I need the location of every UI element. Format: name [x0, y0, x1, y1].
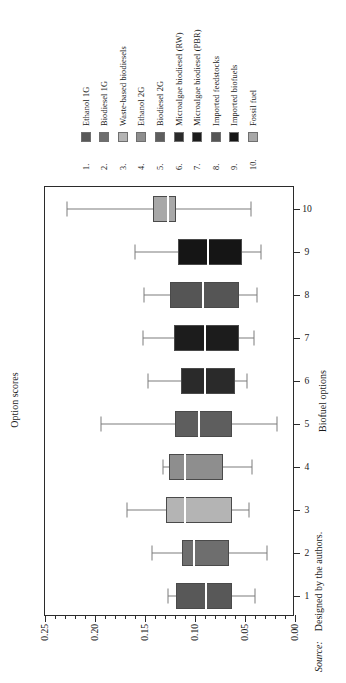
option-axis-tick-label: 3 [298, 503, 316, 514]
boxplot-whisker-cap-low [249, 502, 250, 517]
score-axis-tick-label-text: 0.05 [239, 624, 250, 641]
score-axis-major-tick [45, 615, 46, 622]
legend-entry-number-text: 9. [230, 164, 239, 170]
boxplot-whisker-cap-high [143, 330, 144, 345]
score-axis-minor-tick [185, 615, 186, 619]
boxplot-whisker-cap-low [267, 545, 268, 560]
option-axis-tick-label: 8 [298, 288, 316, 299]
option-axis-tick-label: 4 [298, 460, 316, 471]
score-axis-minor-tick [215, 615, 216, 619]
legend-entry-number-text: 7. [193, 164, 202, 170]
boxplot-box [45, 454, 295, 480]
source-label: Source: [313, 641, 324, 672]
boxplot-median-line [184, 454, 186, 480]
score-axis-minor-tick [55, 615, 56, 619]
boxplot-whisker-cap-low [251, 201, 252, 216]
boxplot-box [45, 325, 295, 351]
score-axis-minor-tick [285, 615, 286, 619]
boxplot-median-line [204, 325, 206, 351]
score-axis-tick-labels: 0.000.050.100.150.200.25 [44, 624, 294, 664]
boxplot-box [45, 411, 295, 437]
legend-entry-label-text: Biodiesel 1G [100, 81, 109, 126]
boxplot-whisker-cap-high [168, 588, 169, 603]
legend-entry-label-text: Waste-based biodiesels [118, 46, 127, 126]
boxplot-whisker-cap-low [247, 373, 248, 388]
legend-entry: Imported biofuels9. [225, 0, 244, 172]
source-credit: Designed by the authors. [313, 532, 324, 631]
score-axis-tick-label-text: 0.10 [189, 624, 200, 641]
score-axis-minor-tick [165, 615, 166, 619]
boxplot-whisker-cap-high [135, 244, 136, 259]
option-axis-tick-label: 6 [298, 374, 316, 385]
boxplot-iqr-rect [181, 368, 235, 394]
score-axis-minor-tick [205, 615, 206, 619]
legend: Ethanol 1G1.Biodiesel 1G2.Waste-based bi… [0, 0, 346, 172]
legend-entry: Microalgae biodiesel (PBR)7. [188, 0, 207, 172]
legend-entry-number-text: 1. [81, 164, 90, 170]
boxplot-box [45, 196, 295, 222]
boxplot-median-line [202, 282, 204, 308]
legend-entry-label-text: Microalgae biodiesel (RW) [174, 32, 183, 126]
legend-entry-label-text: Imported feedstocks [211, 56, 220, 126]
boxplot-whisker-cap-high [127, 502, 128, 517]
score-axis-minor-tick [135, 615, 136, 619]
legend-entry-number-text: 6. [174, 164, 183, 170]
score-axis-minor-tick [115, 615, 116, 619]
legend-color-swatch [136, 132, 146, 142]
legend-entry-number-text: 3. [118, 164, 127, 170]
boxplot-box [45, 282, 295, 308]
boxplot-iqr-rect [178, 239, 242, 265]
legend-entry: Biodiesel 1G2. [95, 0, 114, 172]
score-axis-major-tick [295, 615, 296, 622]
boxplot-iqr-rect [153, 196, 176, 222]
boxplot-whisker-cap-high [152, 545, 153, 560]
score-axis-minor-tick [125, 615, 126, 619]
boxplot-iqr-rect [176, 583, 232, 609]
boxplot-box [45, 540, 295, 566]
score-axis-minor-tick [265, 615, 266, 619]
legend-color-swatch [229, 132, 239, 142]
score-axis-major-tick [245, 615, 246, 622]
boxplot-whisker-cap-low [254, 330, 255, 345]
boxplot-whisker-cap-low [252, 459, 253, 474]
option-axis-tick-label: 10 [298, 202, 316, 213]
score-axis-minor-tick [105, 615, 106, 619]
legend-entry-number-text: 4. [137, 164, 146, 170]
score-axis-major-tick [95, 615, 96, 622]
boxplot-whisker-cap-high [144, 287, 145, 302]
boxplot-whisker-cap-high [163, 459, 164, 474]
score-axis-title-text: Option scores [9, 372, 20, 427]
legend-color-swatch [174, 132, 184, 142]
boxplot-median-line [193, 540, 195, 566]
score-axis-tick-label-text: 0.00 [289, 624, 300, 641]
boxplot-whisker-cap-low [257, 287, 258, 302]
legend-entry-label-text: Microalgae biodiesel (PBR) [193, 29, 202, 126]
legend-entry: Biodiesel 2G5. [150, 0, 169, 172]
option-axis-tick-label: 9 [298, 245, 316, 256]
score-axis-tick-label-text: 0.20 [89, 624, 100, 641]
legend-entry: Fossil fuel10. [243, 0, 262, 172]
boxplot-median-line [205, 583, 207, 609]
boxplot-iqr-rect [182, 540, 229, 566]
option-axis-title-text: Biofuel options [317, 370, 328, 432]
legend-entry-number-text: 10. [248, 160, 257, 170]
score-axis-minor-tick [85, 615, 86, 619]
legend-entry-number-text: 2. [100, 164, 109, 170]
source-note-text: Source: Designed by the authors. [313, 532, 324, 672]
option-axis-tick-label: 7 [298, 331, 316, 342]
boxplot-whisker-cap-low [277, 416, 278, 431]
boxplot-whisker-cap-high [67, 201, 68, 216]
legend-entry-number-text: 8. [211, 164, 220, 170]
legend-entry: Microalgae biodiesel (RW)6. [169, 0, 188, 172]
legend-color-swatch [192, 132, 202, 142]
boxplot-iqr-rect [175, 411, 232, 437]
legend-color-swatch [118, 132, 128, 142]
boxplot-median-line [167, 196, 169, 222]
score-axis-tick-label-text: 0.15 [139, 624, 150, 641]
legend-entry-label-text: Ethanol 1G [81, 87, 90, 126]
boxplot-whisker-cap-high [101, 416, 102, 431]
boxplot-whisker-cap-high [148, 373, 149, 388]
boxplot-iqr-rect [166, 497, 232, 523]
legend-entry: Waste-based biodiesels3. [113, 0, 132, 172]
legend-color-swatch [81, 132, 91, 142]
